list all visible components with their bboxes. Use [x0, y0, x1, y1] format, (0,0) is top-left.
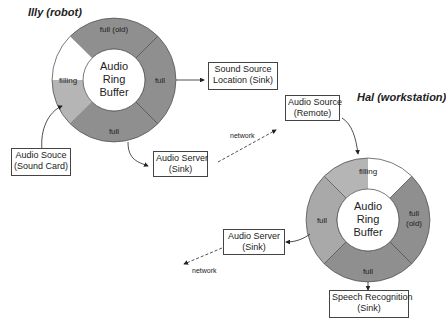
title-name: Illy — [28, 6, 43, 18]
box-line: (Remote) — [288, 108, 337, 119]
segment-label: filling — [59, 76, 77, 85]
hal-audio-server-box: Audio Server (Sink) — [223, 229, 285, 255]
box-line: (Sink) — [332, 303, 406, 314]
speech-recognition-box: Speech Recognition (Sink) — [329, 290, 409, 318]
title-role: workstation — [381, 91, 443, 103]
hal-title: Hal (workstation) — [357, 91, 446, 103]
network-label: network — [192, 267, 217, 274]
segment-label: full — [317, 216, 327, 225]
box-line: (Sink) — [226, 242, 282, 253]
segment-label: full — [409, 209, 419, 218]
segment-label: full — [155, 76, 165, 85]
audio-souce-box: Audio Souce (Sound Card) — [11, 148, 71, 176]
ring-center-label: Buffer — [353, 226, 382, 238]
box-line: Audio Source — [288, 97, 337, 108]
hal-ring-buffer: filling full (old) full full Audio Ring … — [306, 158, 430, 282]
illy-title: Illy (robot) — [28, 6, 82, 18]
ring-center-label: Ring — [103, 73, 126, 85]
segment-label: full — [109, 127, 119, 136]
arrow-to-audio-server — [128, 142, 148, 166]
box-line: Audio Server — [226, 231, 282, 242]
segment-label: full — [363, 267, 373, 276]
box-line: Audio Souce — [14, 150, 68, 161]
illy-ring-buffer: full (old) full full filling Audio Ring … — [52, 18, 176, 142]
network-label: network — [230, 132, 255, 139]
segment-label-extra: (old) — [406, 219, 422, 228]
box-line: Speech Recognition — [332, 292, 406, 303]
illy-audio-server-box: Audio Server (Sink) — [153, 151, 208, 177]
ring-center-label: Audio — [354, 200, 382, 212]
sound-source-location-box: Sound Source Location (Sink) — [208, 62, 278, 90]
network-arrow-out — [184, 248, 222, 264]
box-line: Location (Sink) — [211, 75, 275, 86]
ring-center-label: Buffer — [99, 86, 128, 98]
ring-center-label: Audio — [100, 60, 128, 72]
box-line: Audio Server — [156, 153, 205, 164]
arrow-to-hal-audio-server — [286, 234, 310, 242]
arrow-to-hal-ring — [342, 118, 358, 154]
segment-label: filling — [359, 167, 377, 176]
title-name: Hal — [357, 91, 374, 103]
box-line: (Sink) — [156, 164, 205, 175]
title-role: robot — [50, 6, 78, 18]
audio-source-remote-box: Audio Source (Remote) — [285, 95, 340, 121]
box-line: Sound Source — [211, 64, 275, 75]
ring-center-label: Ring — [357, 213, 380, 225]
arrow-from-audio-souce — [42, 106, 62, 150]
box-line: (Sound Card) — [14, 161, 68, 172]
segment-label: full (old) — [100, 25, 129, 34]
